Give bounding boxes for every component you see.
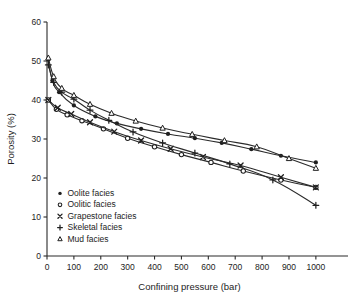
marker-filled-circle: [139, 127, 143, 131]
chart-canvas: 0102030405060010020030040050060070080090…: [0, 0, 355, 301]
marker-filled-circle: [314, 160, 318, 164]
legend-item-label: Grapestone facies: [68, 211, 137, 221]
series-skeletal-facies: [45, 62, 318, 208]
legend-item[interactable]: Mud facies: [58, 234, 109, 244]
marker-open-triangle: [58, 237, 62, 241]
marker-plus: [313, 202, 319, 208]
y-tick-label: 60: [32, 17, 42, 27]
marker-plus: [87, 107, 93, 113]
marker-filled-circle: [72, 103, 76, 107]
marker-open-triangle: [87, 101, 92, 106]
marker-open-circle: [241, 169, 245, 173]
series-oolite-facies: [46, 58, 318, 165]
y-tick-label: 30: [32, 134, 42, 144]
y-tick-label: 50: [32, 56, 42, 66]
x-tick-label: 600: [201, 262, 215, 272]
marker-open-triangle: [160, 125, 165, 130]
marker-plus: [58, 225, 63, 230]
x-tick-label: 500: [174, 262, 188, 272]
marker-filled-circle: [93, 114, 97, 118]
x-tick-group: 01002003004005006007008009001000: [45, 256, 326, 272]
marker-plus: [130, 129, 136, 135]
marker-open-triangle: [313, 165, 318, 170]
x-axis-title: Confining pressure (bar): [138, 281, 240, 292]
marker-open-circle: [179, 152, 183, 156]
legend-item[interactable]: Oolite facies: [58, 188, 114, 198]
marker-open-circle: [58, 203, 62, 207]
x-tick-label: 200: [94, 262, 108, 272]
y-tick-label: 0: [36, 251, 41, 261]
series-markers: [46, 58, 318, 165]
x-tick-label: 0: [45, 262, 50, 272]
marker-open-triangle: [133, 118, 138, 123]
legend-item-label: Mud facies: [68, 234, 109, 244]
x-tick-label: 1000: [306, 262, 325, 272]
marker-open-triangle: [109, 110, 114, 115]
x-tick-label: 800: [255, 262, 269, 272]
legend-item[interactable]: Skeletal facies: [58, 222, 123, 232]
x-tick-label: 900: [282, 262, 296, 272]
y-tick-label: 10: [32, 212, 42, 222]
x-tick-label: 700: [228, 262, 242, 272]
y-axis-title: Porosity (%): [5, 113, 16, 165]
marker-open-triangle: [51, 74, 56, 79]
marker-filled-circle: [58, 192, 61, 195]
marker-open-circle: [209, 160, 213, 164]
legend-item-label: Oolitic facies: [68, 199, 116, 209]
marker-open-triangle: [190, 131, 195, 136]
legend-item-label: Skeletal facies: [68, 222, 123, 232]
legend-item[interactable]: Oolitic facies: [58, 199, 115, 209]
legend: Oolite faciesOolitic faciesGrapestone fa…: [58, 188, 137, 244]
x-tick-label: 300: [121, 262, 135, 272]
marker-open-triangle: [286, 156, 291, 161]
marker-open-triangle: [254, 144, 259, 149]
series-line: [48, 65, 316, 205]
legend-item[interactable]: Grapestone facies: [58, 211, 137, 221]
marker-filled-circle: [166, 132, 170, 136]
series-markers: [45, 62, 318, 208]
y-tick-label: 40: [32, 95, 42, 105]
marker-plus: [160, 140, 166, 146]
marker-cross-x: [58, 214, 62, 218]
x-tick-label: 100: [67, 262, 81, 272]
series-line: [48, 60, 316, 163]
y-tick-group: 0102030405060: [32, 17, 47, 261]
x-tick-label: 400: [147, 262, 161, 272]
series-grapestone-facies: [46, 98, 319, 190]
porosity-pressure-chart: 0102030405060010020030040050060070080090…: [0, 0, 355, 301]
marker-filled-circle: [249, 147, 253, 151]
marker-open-triangle: [71, 92, 76, 97]
legend-item-label: Oolite facies: [68, 188, 115, 198]
marker-open-triangle: [222, 138, 227, 143]
y-tick-label: 20: [32, 173, 42, 183]
